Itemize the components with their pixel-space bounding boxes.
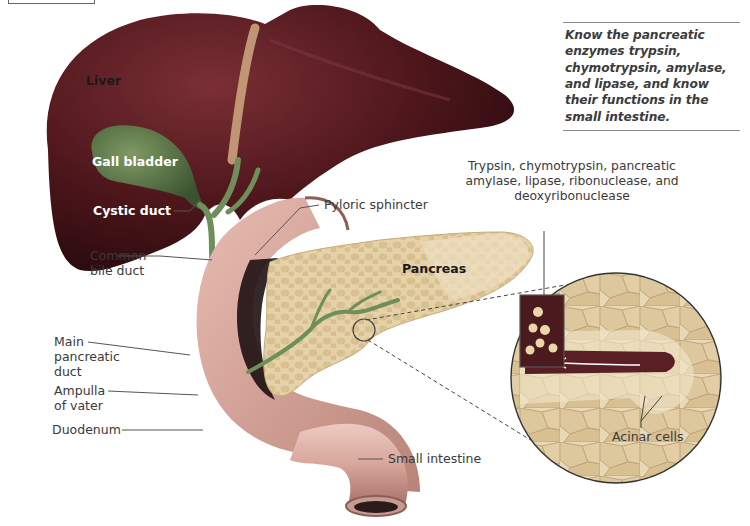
label-liver: Liver [86, 74, 121, 89]
label-acinar-cells: Acinar cells [612, 430, 683, 445]
label-common-bile-duct-line2: bile duct [90, 264, 144, 279]
label-ampulla-line2: of vater [54, 399, 103, 414]
label-main-pancreatic-duct-line2: pancreatic [54, 350, 120, 365]
label-pyloric-sphincter: Pyloric sphincter [324, 198, 428, 213]
label-duodenum: Duodenum [52, 423, 121, 438]
label-ampulla-line1: Ampulla [54, 384, 105, 399]
label-common-bile-duct-line1: Common [90, 249, 146, 264]
label-main-pancreatic-duct-line1: Main [54, 335, 84, 350]
label-pancreatic-enzymes: Trypsin, chymotrypsin, pancreatic amylas… [452, 159, 692, 204]
label-main-pancreatic-duct-line3: duct [54, 365, 82, 380]
label-pancreas: Pancreas [402, 262, 466, 277]
label-gall-bladder: Gall bladder [92, 155, 178, 170]
pancreas [264, 232, 533, 396]
study-note: Know the pancreatic enzymes trypsin, chy… [563, 22, 740, 131]
label-small-intestine: Small intestine [388, 452, 481, 467]
label-cystic-duct: Cystic duct [93, 204, 171, 219]
